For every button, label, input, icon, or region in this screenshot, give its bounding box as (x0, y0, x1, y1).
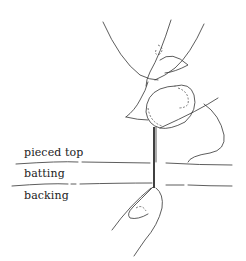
lower-hand-finger (129, 187, 153, 219)
layer-label-pieced-top: pieced top (24, 147, 83, 158)
pieced-top-boundary-line (16, 162, 232, 165)
upper-hand-finger (146, 20, 171, 86)
thimble-dashed-outline (148, 88, 188, 126)
quilting-illustration (0, 0, 246, 261)
lower-hand-finger-outline (134, 188, 162, 256)
upper-hand-palm (126, 82, 148, 120)
thimble-finger (146, 85, 195, 128)
layer-label-backing: backing (24, 190, 69, 201)
upper-hand-finger (103, 22, 158, 80)
layer-label-batting: batting (24, 168, 65, 179)
upper-hand-wrist (160, 98, 224, 162)
upper-hand-finger (155, 24, 204, 80)
batting-boundary-line (12, 183, 232, 186)
lower-hand-nail (136, 207, 146, 211)
